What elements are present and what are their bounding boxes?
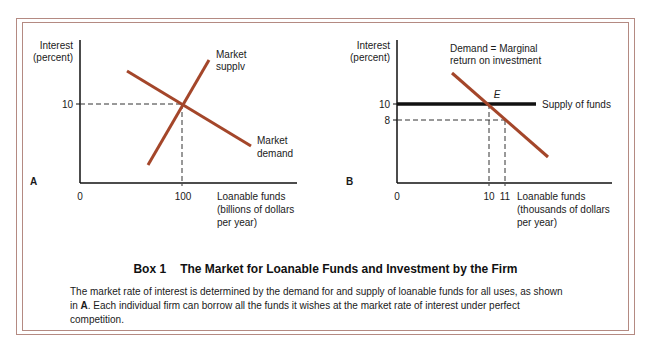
panel-b-ytick2-label: 8 — [384, 115, 390, 126]
panel-b-xlabel-1: Loanable funds — [517, 191, 585, 202]
panel-b-xtick1-label: 10 — [483, 191, 495, 202]
panel-b-point-e: E — [494, 89, 501, 100]
caption-ref: A — [81, 300, 88, 311]
panel-b-demand-label-1: Demand = Marginal — [450, 43, 538, 54]
figure-title: Box 1The Market for Loanable Funds and I… — [0, 262, 651, 276]
panel-a-letter: A — [30, 176, 37, 187]
panel-b-x0: 0 — [394, 191, 400, 202]
panel-a-x0: 0 — [77, 191, 83, 202]
panel-a-xlabel-3: per year) — [217, 217, 257, 228]
panel-a-xlabel-2: (billions of dollars — [217, 204, 294, 215]
panel-b-ytick1-label: 10 — [379, 99, 391, 110]
panel-a: Interest (percent) 10 Market supplv Mark… — [30, 40, 297, 228]
caption-part-2: . Each individual firm can borrow all th… — [70, 300, 520, 325]
panel-b-xtick2-label: 11 — [500, 191, 511, 202]
panel-a-demand-label-2: demand — [257, 148, 293, 159]
panel-a-supply-label-1: Market — [216, 49, 247, 60]
panel-b-xlabel-2: (thousands of dollars — [517, 204, 610, 215]
panel-a-supply-curve — [148, 60, 209, 165]
panel-b-demand-curve — [452, 73, 548, 157]
figure-caption: The market rate of interest is determine… — [70, 285, 570, 327]
panel-a-demand-curve — [127, 71, 251, 146]
panel-b: Interest (percent) 10 8 Demand = Margina… — [346, 40, 612, 228]
panel-b-ylabel-line1: Interest — [357, 40, 391, 51]
panel-b-letter: B — [346, 176, 353, 187]
panel-a-xtick-label: 100 — [175, 191, 192, 202]
panel-b-xlabel-3: per year) — [517, 217, 557, 228]
panel-b-demand-label-2: return on investment — [450, 55, 541, 66]
panel-b-supply-label: Supply of funds — [542, 99, 611, 110]
box-number: Box 1 — [133, 262, 166, 276]
panel-a-ylabel-line1: Interest — [40, 40, 74, 51]
panel-a-ytick-label: 10 — [62, 99, 74, 110]
figure-title-text: The Market for Loanable Funds and Invest… — [180, 262, 517, 276]
panel-a-ylabel-line2: (percent) — [33, 52, 73, 63]
panel-b-ylabel-line2: (percent) — [350, 52, 390, 63]
panel-a-supply-label-2: supplv — [216, 61, 245, 72]
panel-a-demand-label-1: Market — [257, 135, 288, 146]
panel-a-xlabel-1: Loanable funds — [217, 191, 285, 202]
